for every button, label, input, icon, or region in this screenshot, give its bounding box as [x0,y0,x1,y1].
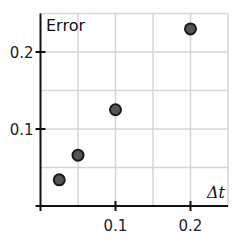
x-axis-title: Δt [206,183,226,202]
y-axis-title: Error [46,16,85,35]
y-tick-label: 0.2 [10,44,34,62]
scatter-chart: 0.10.20.10.2 Error Δt [0,0,241,244]
data-point [110,104,121,115]
data-point [73,150,84,161]
x-tick-label: 0.1 [104,217,128,235]
data-points [54,23,196,185]
y-tick-label: 0.1 [10,121,34,139]
grid-lines [41,14,229,207]
data-point [54,174,65,185]
data-point [185,23,196,34]
x-tick-label: 0.2 [179,217,203,235]
